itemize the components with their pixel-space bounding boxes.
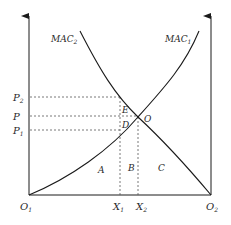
x1-label: X1 <box>112 201 124 213</box>
p2-label: P2 <box>12 92 24 104</box>
x2-label: X2 <box>135 201 147 213</box>
mac-diagram: MAC2 MAC1 P2 P P1 E D O A B C O1 X1 X2 O… <box>0 0 231 225</box>
point-d-label: D <box>121 120 129 130</box>
o1-label: O1 <box>20 201 32 213</box>
point-e-label: E <box>121 105 129 115</box>
area-b-label: B <box>127 163 135 173</box>
mac1-label: MAC1 <box>164 34 191 45</box>
area-a-label: A <box>97 165 105 175</box>
mac1-curve <box>29 31 199 195</box>
mac2-label: MAC2 <box>50 34 78 45</box>
p-label: P <box>12 111 20 122</box>
p1-label: P1 <box>12 125 24 137</box>
o2-label: O2 <box>206 201 218 213</box>
intersection-o-label: O <box>144 114 152 124</box>
area-c-label: C <box>158 163 165 173</box>
